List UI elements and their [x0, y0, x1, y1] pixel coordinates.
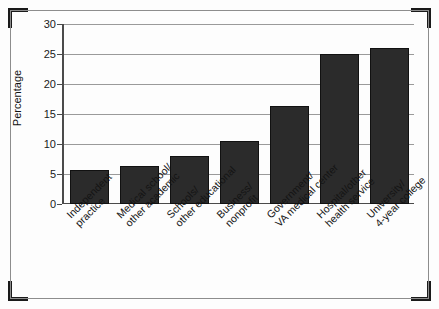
y-axis-tick-label: 0	[50, 198, 56, 210]
y-axis-tick-label: 25	[44, 48, 56, 60]
y-axis-tick-label: 30	[44, 18, 56, 30]
gridline	[64, 84, 414, 85]
y-axis-tick-label: 5	[50, 168, 56, 180]
gridline	[64, 24, 414, 25]
gridline	[64, 54, 414, 55]
y-axis-tick-label: 10	[44, 138, 56, 150]
y-axis-tick-mark	[57, 204, 62, 205]
gridline	[64, 114, 414, 115]
y-axis-tick-label: 20	[44, 78, 56, 90]
figure-container: Percentage 051015202530 Independentpract…	[0, 0, 439, 309]
y-axis-tick-labels: 051015202530	[30, 24, 56, 204]
x-axis-tick-labels: IndependentpracticeMedical school/other …	[62, 206, 412, 302]
y-axis-tick-label: 15	[44, 108, 56, 120]
y-axis-title: Percentage	[11, 53, 23, 143]
